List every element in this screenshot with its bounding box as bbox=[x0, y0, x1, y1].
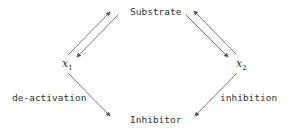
edge-substrate-to-x1 bbox=[77, 15, 118, 57]
x2-subscript: 2 bbox=[242, 64, 246, 72]
x1-subscript: 1 bbox=[68, 64, 72, 72]
edge-x1-to-substrate bbox=[68, 12, 110, 55]
edge-x2-to-substrate bbox=[194, 11, 236, 54]
node-x1: x1 bbox=[62, 58, 73, 72]
edge-label-deactivation: de-activation bbox=[12, 93, 86, 103]
edge-substrate-to-x2 bbox=[186, 15, 228, 57]
node-inhibitor: Inhibitor bbox=[130, 115, 181, 125]
node-substrate: Substrate bbox=[130, 7, 181, 17]
edge-label-inhibition: inhibition bbox=[220, 93, 277, 103]
node-x2: x2 bbox=[236, 58, 247, 72]
